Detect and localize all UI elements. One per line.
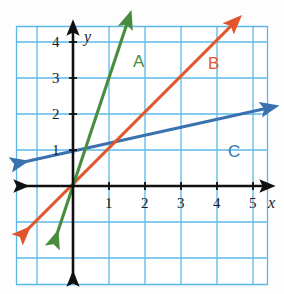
x-tick-label-1: 1: [105, 196, 113, 211]
y-tick-label-3: 3: [52, 71, 60, 86]
y-tick-label-4: 4: [52, 35, 60, 50]
y-tick-label-1: 1: [52, 143, 60, 158]
line-label-a: A: [133, 53, 144, 70]
x-axis-label: x: [268, 195, 275, 211]
y-axis-label: y: [84, 29, 91, 45]
y-tick-label-2: 2: [52, 107, 60, 122]
x-tick-label-2: 2: [141, 196, 149, 211]
line-label-b: B: [208, 55, 219, 72]
x-tick-label-5: 5: [249, 196, 257, 211]
graph-figure: 1 2 3 4 5 1 2 3 4 x y A B C: [0, 0, 284, 294]
coordinate-plane-svg: [0, 0, 284, 294]
x-tick-label-3: 3: [177, 196, 185, 211]
x-tick-label-4: 4: [213, 196, 221, 211]
line-label-c: C: [228, 143, 240, 160]
